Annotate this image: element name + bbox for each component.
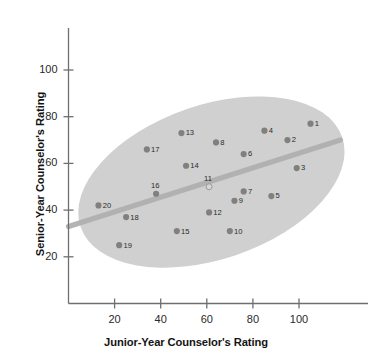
data-point-label: 12 — [213, 208, 221, 217]
data-point-label: 18 — [130, 213, 138, 222]
data-point-label: 6 — [248, 149, 252, 158]
data-point-label: 7 — [248, 187, 252, 196]
data-point-label: 8 — [220, 138, 224, 147]
data-point — [206, 209, 212, 215]
x-tick-label: 20 — [98, 313, 132, 325]
data-point-label: 9 — [239, 196, 243, 205]
data-point-label: 5 — [276, 191, 280, 200]
data-point-label: 16 — [151, 181, 159, 190]
x-tick-label: 100 — [282, 313, 316, 325]
data-point — [153, 191, 159, 197]
data-point — [261, 128, 267, 134]
data-point-label: 4 — [269, 126, 273, 135]
data-point — [294, 165, 300, 171]
data-point — [213, 139, 219, 145]
data-point — [284, 137, 290, 143]
scatter-plot-figure: 2040608010020406080100 12345678910111213… — [0, 0, 372, 361]
plot-canvas — [0, 0, 372, 361]
data-point-label: 14 — [190, 161, 198, 170]
data-point-label: 2 — [292, 135, 296, 144]
data-point-label: 15 — [181, 227, 189, 236]
data-point — [227, 228, 233, 234]
data-point-label: 1 — [315, 119, 319, 128]
x-tick-label: 80 — [236, 313, 270, 325]
data-point-label: 20 — [103, 201, 111, 210]
data-point — [123, 214, 129, 220]
data-point-label: 19 — [123, 241, 131, 250]
x-axis-title: Junior-Year Counselor's Rating — [0, 336, 372, 348]
data-point — [116, 242, 122, 248]
data-point — [231, 198, 237, 204]
data-point — [206, 184, 212, 190]
data-point-label: 10 — [234, 227, 242, 236]
x-tick-label: 60 — [190, 313, 224, 325]
x-tick-label: 40 — [144, 313, 178, 325]
data-point-label: 13 — [186, 128, 194, 137]
data-point — [183, 163, 189, 169]
data-point — [178, 130, 184, 136]
data-point — [95, 202, 101, 208]
data-point — [174, 228, 180, 234]
y-axis-title: Senior-Year Counselor's Rating — [34, 54, 46, 294]
data-point — [144, 146, 150, 152]
data-point — [241, 188, 247, 194]
data-point — [307, 121, 313, 127]
data-point-label: 11 — [204, 174, 212, 183]
data-point — [268, 193, 274, 199]
data-point-label: 17 — [151, 145, 159, 154]
data-point — [241, 151, 247, 157]
data-point-label: 3 — [301, 163, 305, 172]
